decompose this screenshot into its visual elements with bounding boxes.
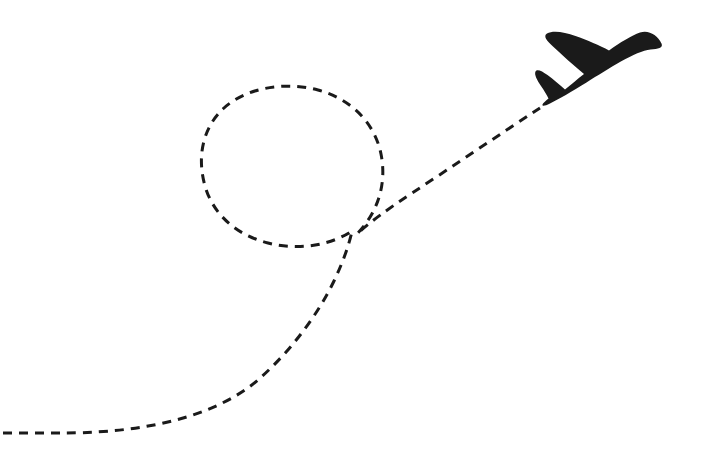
airplane-trail-illustration	[0, 0, 705, 458]
illustration-canvas: Airplane with looping dashed flight trai…	[0, 0, 705, 458]
